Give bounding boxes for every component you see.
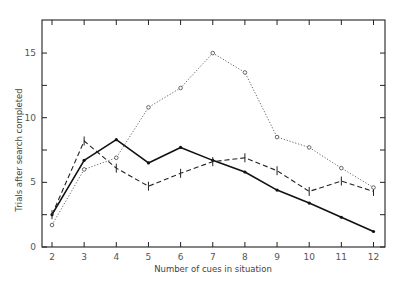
circle-marker [50, 223, 54, 227]
star-marker [308, 201, 311, 204]
star-marker [340, 216, 343, 219]
series-dotted-circle [50, 51, 375, 227]
star-marker [115, 138, 118, 141]
x-tick-label: 7 [210, 252, 216, 262]
circle-marker [340, 166, 344, 170]
y-axis-label: Trials after search completed [14, 88, 24, 212]
circle-marker [179, 86, 183, 90]
y-tick-label: 10 [25, 113, 37, 123]
star-marker [83, 159, 86, 162]
star-marker [275, 189, 278, 192]
x-axis-label: Number of cues in situation [154, 264, 272, 274]
x-tick-label: 2 [49, 252, 55, 262]
series-solid-star [50, 138, 375, 233]
x-tick-label: 6 [178, 252, 184, 262]
x-tick-label: 8 [242, 252, 248, 262]
circle-marker [243, 71, 247, 75]
series-line [52, 141, 374, 215]
circle-marker [147, 106, 151, 110]
y-tick-label: 5 [30, 177, 36, 187]
star-marker [147, 161, 150, 164]
circle-marker [307, 146, 311, 150]
star-marker [179, 146, 182, 149]
line-chart: 051015 23456789101112 Number of cues in … [0, 0, 399, 284]
x-tick-label: 11 [336, 252, 347, 262]
circle-marker [211, 51, 215, 55]
star-marker [372, 230, 375, 233]
x-tick-label: 9 [274, 252, 280, 262]
series-dashed-tick [52, 136, 374, 219]
circle-marker [115, 156, 119, 160]
x-tick-label: 12 [368, 252, 379, 262]
circle-marker [372, 186, 376, 190]
x-tick-label: 10 [303, 252, 315, 262]
y-tick-label: 0 [30, 242, 36, 252]
series-line [52, 140, 374, 232]
star-marker [243, 170, 246, 173]
circle-marker [275, 135, 279, 139]
series-layer [50, 51, 375, 233]
circle-marker [82, 168, 86, 172]
series-line [52, 53, 374, 225]
x-tick-label: 4 [113, 252, 119, 262]
x-tick-label: 5 [146, 252, 152, 262]
x-tick-label: 3 [81, 252, 87, 262]
chart-canvas: 051015 23456789101112 Number of cues in … [0, 0, 399, 284]
y-tick-label: 15 [25, 48, 36, 58]
y-axis-ticks: 051015 [25, 48, 385, 252]
x-axis-ticks: 23456789101112 [49, 20, 379, 262]
